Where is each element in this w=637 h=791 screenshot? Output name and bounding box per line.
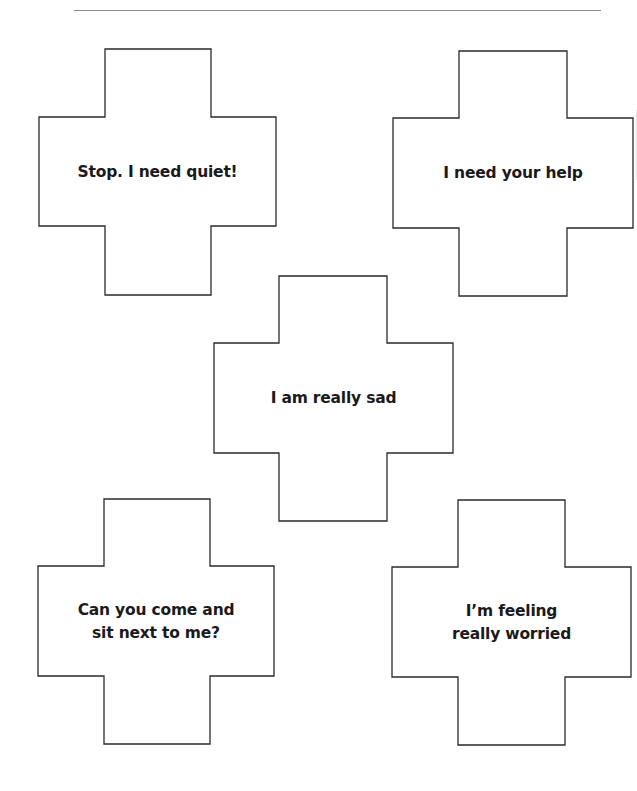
cross-card-really-worried: I’m feeling really worried [392, 500, 631, 745]
card-label-line: Can you come and [78, 599, 235, 622]
card-label-line: really worried [452, 623, 571, 646]
top-rule-divider [74, 10, 601, 11]
card-label-line: I’m feeling [466, 600, 558, 623]
card-label-line: I am really sad [271, 387, 397, 410]
card-label: I’m feeling really worried [392, 500, 631, 745]
cross-card-need-help: I need your help [393, 51, 633, 296]
cross-card-really-sad: I am really sad [214, 276, 453, 521]
card-label-line: sit next to me? [92, 622, 220, 645]
cross-card-sit-next: Can you come and sit next to me? [38, 499, 274, 744]
card-label: I need your help [393, 51, 633, 296]
card-label: Stop. I need quiet! [39, 49, 276, 295]
card-label: I am really sad [214, 276, 453, 521]
card-label-line: Stop. I need quiet! [78, 161, 238, 184]
card-label-line: I need your help [443, 162, 582, 185]
card-label: Can you come and sit next to me? [38, 499, 274, 744]
cross-card-stop-quiet: Stop. I need quiet! [39, 49, 276, 295]
